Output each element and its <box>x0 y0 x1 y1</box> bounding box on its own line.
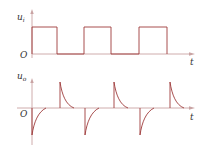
bottom-y-label: uo <box>17 71 27 82</box>
bottom-y-axis-arrow-icon <box>30 78 33 83</box>
negative-spike-2 <box>85 108 99 135</box>
bottom-origin-label: O <box>20 109 28 119</box>
differentiator-waveform-diagram: ui O t uo O t <box>0 0 207 155</box>
top-origin-label: O <box>20 50 28 60</box>
positive-spike-1 <box>60 82 74 108</box>
top-x-axis-arrow-icon <box>189 52 195 55</box>
top-y-axis-arrow-icon <box>30 9 33 14</box>
negative-spike-3 <box>140 108 154 135</box>
positive-spike-2 <box>114 82 128 108</box>
top-y-label: ui <box>17 12 25 23</box>
input-square-wave-plot: ui O t <box>17 9 195 67</box>
negative-spike-1 <box>32 108 46 135</box>
top-x-label: t <box>190 57 194 67</box>
bottom-x-label: t <box>190 112 194 122</box>
positive-spike-3 <box>170 82 184 108</box>
square-wave <box>32 27 167 54</box>
bottom-x-axis-arrow-icon <box>189 106 195 109</box>
output-spike-plot: uo O t <box>17 71 195 145</box>
